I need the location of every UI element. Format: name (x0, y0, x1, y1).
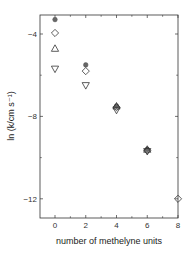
y-axis-label: ln (k/cm s⁻¹) (6, 91, 16, 141)
triangle-down-marker (82, 83, 89, 89)
y-tick-label: −4 (28, 30, 38, 39)
plot-frame (40, 15, 178, 218)
x-axis-label: number of methelyne units (56, 236, 163, 246)
triangle-up-marker (51, 45, 58, 51)
triangle-down-marker (51, 66, 58, 72)
axis-ticks: 02468−4−8−12 (23, 15, 180, 230)
circle-marker (53, 17, 58, 22)
diamond-marker (82, 67, 89, 74)
y-tick-label: −8 (28, 112, 38, 121)
y-tick-label: −12 (23, 195, 37, 204)
plot-border (40, 15, 178, 218)
data-points (51, 17, 181, 202)
x-tick-label: 4 (114, 221, 119, 230)
x-tick-label: 0 (53, 221, 58, 230)
circle-marker (83, 63, 88, 68)
x-tick-label: 2 (84, 221, 89, 230)
x-tick-label: 8 (176, 221, 181, 230)
diamond-marker (51, 29, 58, 36)
scatter-chart: 02468−4−8−12 number of methelyne units l… (0, 0, 193, 255)
x-tick-label: 6 (145, 221, 150, 230)
